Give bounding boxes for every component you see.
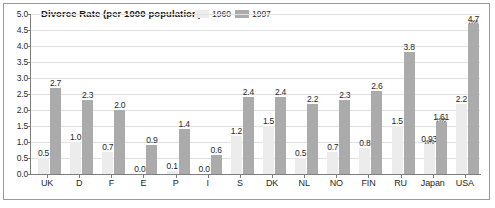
chart-screenshot: Divorce Rate (per 1000 population) 1960 … [0,0,495,208]
bar-group[interactable]: 0.00.9 [127,14,159,174]
bar-group[interactable]: 0.82.6 [352,14,384,174]
bar-1960-FIN[interactable]: 0.8 [359,148,370,174]
bar-value-label: 3.8 [403,42,414,52]
bar-value-label: 2.0 [114,100,125,110]
bar-value-label: 2.3 [82,90,93,100]
bar-1960-NO[interactable]: 0.7 [327,152,338,174]
x-tick-label-DK: DK [256,178,288,188]
bar-group[interactable]: 0.00.6 [192,14,224,174]
bar-1997-DK[interactable]: 2.4 [275,97,286,174]
x-tick-label-NL: NL [288,178,320,188]
bar-note-label: 1995 [436,118,446,123]
x-tick-label-UK: UK [31,178,63,188]
y-tick-label: 2.5 [17,89,28,99]
x-tick-label-F: F [95,178,127,188]
bar-group[interactable]: 0.9319701.611995 [417,14,449,174]
bar-value-label: 1.5 [263,116,274,126]
y-tick-label: 4.0 [17,41,28,51]
bar-1960-RU[interactable]: 1.5 [392,126,403,174]
y-tick-label: 5.0 [17,9,28,19]
bar-1997-F[interactable]: 2.0 [114,110,125,174]
bar-1997-I[interactable]: 0.6 [211,155,222,174]
bar-note-label: 1970 [424,140,434,145]
y-tick-label: 0.0 [17,169,28,179]
y-tick-label: 0.5 [17,153,28,163]
bar-value-label: 2.3 [339,90,350,100]
bar-1997-USA[interactable]: 4.71996 [468,24,479,174]
bar-value-label: 0.0 [134,164,145,174]
x-tick-label-NO: NO [320,178,352,188]
y-tick-label: 4.5 [17,25,28,35]
bar-1997-NO[interactable]: 2.3 [339,100,350,174]
bar-1960-USA[interactable]: 2.2 [456,104,467,174]
bar-1997-D[interactable]: 2.3 [82,100,93,174]
x-tick-label-S: S [224,178,256,188]
bar-1960-Japan[interactable]: 0.931970 [424,144,435,174]
bar-group[interactable]: 1.52.4 [256,14,288,174]
x-tick-label-I: I [192,178,224,188]
y-axis-labels: 5.04.54.03.53.02.52.01.51.00.50.0 [0,14,28,174]
x-axis-line [30,174,481,175]
bar-group[interactable]: 0.72.3 [320,14,352,174]
bar-group[interactable]: 1.22.4 [224,14,256,174]
bar-1997-UK[interactable]: 2.7 [50,88,61,174]
bar-value-label: 1.0 [70,132,81,142]
bar-1997-NL[interactable]: 2.2 [307,104,318,174]
bar-value-label: 0.5 [295,148,306,158]
bar-note-label: 1996 [468,20,478,25]
y-tick-label: 1.5 [17,121,28,131]
bar-1960-UK[interactable]: 0.5 [38,158,49,174]
bar-group[interactable]: 0.11.4 [160,14,192,174]
bar-1960-DK[interactable]: 1.5 [263,126,274,174]
x-tick-label-RU: RU [385,178,417,188]
y-tick-label: 3.0 [17,73,28,83]
bar-1960-NL[interactable]: 0.5 [295,158,306,174]
bar-value-label: 1.2 [231,126,242,136]
bar-1997-S[interactable]: 2.4 [243,97,254,174]
x-tick-label-D: D [63,178,95,188]
bar-groups: 0.52.71.02.30.72.00.00.90.11.40.00.61.22… [31,14,481,174]
bar-value-label: 0.7 [102,142,113,152]
x-tick-label-Japan: Japan [417,178,449,188]
bar-group[interactable]: 0.72.0 [95,14,127,174]
x-tick-label-P: P [160,178,192,188]
bar-value-label: 0.6 [211,145,222,155]
bar-value-label: 0.8 [359,138,370,148]
bar-group[interactable]: 1.02.3 [63,14,95,174]
bar-value-label: 0.7 [327,142,338,152]
bar-value-label: 2.2 [456,94,467,104]
bar-value-label: 2.7 [50,78,61,88]
bar-1960-S[interactable]: 1.2 [231,136,242,174]
bar-value-label: 1.4 [178,119,189,129]
bar-group[interactable]: 0.52.7 [31,14,63,174]
bar-value-label: 0.5 [38,148,49,158]
bar-group[interactable]: 1.53.8 [385,14,417,174]
x-tick-label-E: E [127,178,159,188]
bar-1997-RU[interactable]: 3.8 [404,52,415,174]
x-tick-label-FIN: FIN [352,178,384,188]
bar-1960-F[interactable]: 0.7 [102,152,113,174]
bar-1997-Japan[interactable]: 1.611995 [436,122,447,174]
y-tick-label: 2.0 [17,105,28,115]
bar-value-label: 1.5 [391,116,402,126]
bar-value-label: 2.2 [307,94,318,104]
bar-value-label: 0.9 [146,135,157,145]
bar-1997-P[interactable]: 1.4 [179,129,190,174]
bar-group[interactable]: 0.52.2 [288,14,320,174]
bar-group[interactable]: 2.24.71996 [449,14,481,174]
bar-1997-E[interactable]: 0.9 [146,145,157,174]
x-axis-labels: UKDFEPISDKNLNOFINRUJapanUSA [31,178,481,188]
bar-value-label: 2.4 [275,87,286,97]
x-tick-label-USA: USA [449,178,481,188]
bar-value-label: 0.1 [166,161,177,171]
bar-value-label: 0.0 [199,164,210,174]
bar-1960-D[interactable]: 1.0 [70,142,81,174]
y-tick-label: 3.5 [17,57,28,67]
y-tick-label: 1.0 [17,137,28,147]
bar-value-label: 2.6 [371,81,382,91]
bar-1997-FIN[interactable]: 2.6 [371,91,382,174]
bar-value-label: 2.4 [243,87,254,97]
